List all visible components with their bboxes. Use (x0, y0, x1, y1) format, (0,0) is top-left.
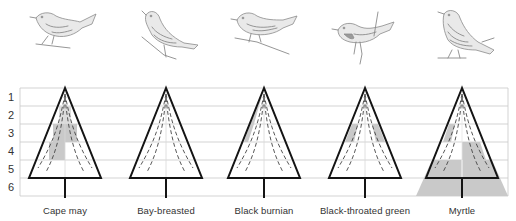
tree-bay-breasted: Bay-breasted (130, 88, 202, 216)
species-label: Cape may (43, 205, 87, 216)
tree-myrtle: Myrtle (416, 88, 508, 216)
species-label: Bay-breasted (137, 205, 195, 216)
warbler-feeding-zones-diagram: 1 2 3 4 5 6 Cape may Bay-breasted (0, 0, 516, 221)
bird-black-burnian-icon (231, 13, 297, 54)
bird-black-throated-green-icon (332, 12, 394, 64)
species-label: Myrtle (449, 205, 475, 216)
species-label: Black burnian (235, 205, 294, 216)
zone-label-4: 4 (8, 145, 14, 157)
tree-black-burnian: Black burnian (228, 88, 300, 216)
bird-myrtle-icon (438, 11, 494, 58)
tree-black-throated-green: Black-throated green (320, 88, 410, 216)
bird-cape-may-icon (30, 13, 96, 48)
zone-label-1: 1 (8, 91, 14, 103)
bird-bay-breasted-icon (142, 11, 198, 59)
zone-label-2: 2 (8, 109, 14, 121)
tree-cape-may: Cape may (29, 88, 101, 216)
zone-label-3: 3 (8, 127, 14, 139)
zone-label-5: 5 (8, 163, 14, 175)
zone-label-6: 6 (8, 181, 14, 193)
species-label: Black-throated green (320, 205, 410, 216)
zone-row-labels: 1 2 3 4 5 6 (8, 91, 14, 193)
